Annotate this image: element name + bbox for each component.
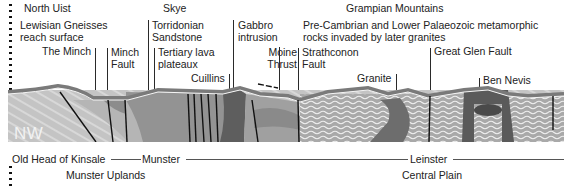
rule-2: [186, 159, 408, 160]
dotted-boundary-top: [9, 2, 12, 90]
rule-1: [111, 159, 141, 160]
label-the-minch: The Minch: [42, 46, 91, 57]
label-old-head-of-kinsale: Old Head of Kinsale: [12, 154, 105, 165]
label-line: Lewisian Gneisses: [20, 19, 108, 31]
label-north-uist: North Uist: [24, 3, 71, 14]
label-line: Pre-Cambrian and Lower Palaeozoic metamo…: [303, 19, 538, 31]
label-line: intrusion: [238, 31, 278, 43]
label-line: Fault: [111, 58, 139, 70]
label-leinster: Leinster: [410, 154, 447, 165]
label-grampian-mountains: Grampian Mountains: [346, 3, 443, 14]
geological-cross-section: [8, 80, 564, 142]
label-line: Sandstone: [152, 31, 204, 43]
label-line: Moine: [247, 46, 297, 58]
label-lewisian-gneisses: Lewisian Gneisses reach surface: [20, 19, 108, 43]
label-line: Fault: [302, 58, 359, 70]
metamorphic-rocks: [300, 94, 564, 142]
label-line: reach surface: [20, 31, 108, 43]
label-great-glen-fault: Great Glen Fault: [434, 46, 512, 57]
label-line: Gabbro: [238, 19, 278, 31]
label-line: rocks invaded by later granites: [303, 31, 538, 43]
label-torridonian: Torridonian Sandstone: [152, 19, 204, 43]
label-line: plateaux: [158, 58, 215, 70]
label-line: Torridonian: [152, 19, 204, 31]
label-precambrian: Pre-Cambrian and Lower Palaeozoic metamo…: [303, 19, 538, 43]
label-tertiary-lava: Tertiary lava plateaux: [158, 46, 215, 70]
label-gabbro-intrusion: Gabbro intrusion: [238, 19, 278, 43]
label-central-plain: Central Plain: [402, 170, 462, 181]
direction-label-nw: NW: [14, 124, 43, 144]
label-line: Strathconon: [302, 46, 359, 58]
rule-3: [453, 159, 564, 160]
label-munster-uplands: Munster Uplands: [66, 170, 145, 181]
label-skye: Skye: [163, 3, 186, 14]
label-munster: Munster: [142, 154, 180, 165]
label-line: Tertiary lava: [158, 46, 215, 58]
label-line: Minch: [111, 46, 139, 58]
label-minch-fault: Minch Fault: [111, 46, 139, 70]
dotted-boundary-bottom: [9, 164, 12, 187]
label-strathconon-fault: Strathconon Fault: [302, 46, 359, 70]
label-line: Thrust: [247, 58, 297, 70]
label-moine-thrust: Moine Thrust: [247, 46, 297, 70]
